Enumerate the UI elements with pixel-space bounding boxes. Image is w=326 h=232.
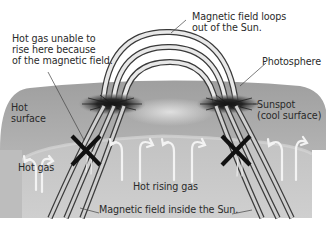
label-hot-gas: Hot gas (18, 162, 54, 173)
label-hot-gas-unable: Hot gas unable to rise here because of t… (12, 33, 113, 66)
label-hot-surface: Hot surface (11, 102, 46, 124)
label-loops: Magnetic field loops out of the Sun. (192, 11, 286, 33)
label-hot-rising-gas: Hot rising gas (133, 181, 198, 192)
label-sunspot: Sunspot (cool surface) (257, 99, 321, 121)
sunspot-diagram: Magnetic field loops out of the Sun. Hot… (0, 0, 326, 232)
label-field-inside: Magnetic field inside the Sun. (99, 204, 238, 215)
label-photosphere: Photosphere (262, 56, 321, 67)
